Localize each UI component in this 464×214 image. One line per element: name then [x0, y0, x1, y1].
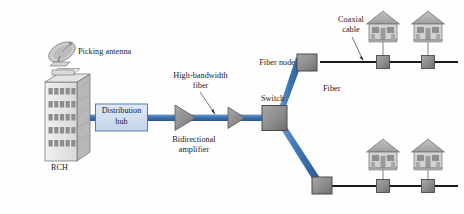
- label-high-bandwidth-fiber-line2: fiber: [158, 81, 243, 90]
- label-fiber-node: Fiber node: [240, 58, 295, 67]
- tap-box: [422, 180, 435, 193]
- label-fiber: Fiber: [323, 84, 341, 93]
- leader-coaxial-cable: [352, 37, 364, 61]
- switch: [262, 106, 287, 131]
- label-rch: RCH: [51, 163, 68, 172]
- fiber-node-upper: [297, 54, 317, 71]
- house-icon: [367, 139, 400, 170]
- link-hub-to-switch: [147, 115, 265, 122]
- link-coax-lower: [330, 168, 458, 186]
- picking-antenna-icon: [45, 38, 79, 67]
- house-icon: [412, 139, 445, 170]
- label-bidirectional-amplifier-line2: amplifier: [152, 145, 236, 154]
- label-switch: Switch: [261, 94, 284, 103]
- label-high-bandwidth-fiber-line1: High-bandwidth: [158, 71, 243, 80]
- label-coaxial-cable-line1: Coaxial: [328, 15, 374, 24]
- headend-building: [45, 69, 90, 162]
- diagram-svg: [0, 0, 464, 214]
- leader-high-bandwidth-fiber: [200, 92, 215, 115]
- tap-box: [377, 56, 390, 69]
- label-distribution-hub-line2: hub: [96, 117, 148, 128]
- house-icon: [412, 11, 445, 42]
- label-bidirectional-amplifier-line1: Bidirectional: [152, 135, 236, 144]
- amplifier-1: [175, 105, 196, 131]
- tap-box: [377, 180, 390, 193]
- fiber-node-lower: [312, 177, 332, 194]
- label-coaxial-cable-line2: cable: [328, 25, 374, 34]
- label-distribution-hub-line1: Distribution: [96, 106, 148, 117]
- tap-box: [422, 56, 435, 69]
- amplifier-2: [228, 107, 245, 129]
- diagram-canvas: Picking antenna RCH Distribution hub Hig…: [0, 0, 464, 214]
- label-picking-antenna: Picking antenna: [78, 47, 131, 56]
